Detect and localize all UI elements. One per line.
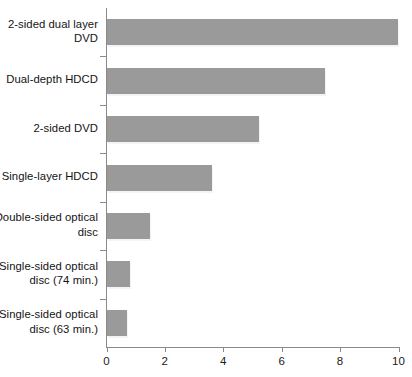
y-axis-tick — [100, 56, 106, 57]
bar — [107, 310, 127, 336]
x-axis-tick — [223, 347, 224, 352]
x-axis-tick — [282, 347, 283, 352]
category-label-line: 2-sided dual layer — [0, 17, 98, 32]
category-label: Dual-depth HDCD — [0, 72, 98, 87]
bar — [107, 165, 212, 191]
category-label: 2-sided DVD — [0, 121, 98, 136]
x-axis-tick — [107, 347, 108, 352]
x-axis-tick — [340, 347, 341, 352]
category-label-line: disc — [0, 225, 98, 240]
category-label: 2-sided dual layerDVD — [0, 17, 98, 46]
x-axis-tick — [399, 347, 400, 352]
category-label-line: Single-layer HDCD — [0, 169, 98, 184]
x-axis-tick-label: 4 — [208, 354, 238, 368]
y-axis-tick — [100, 202, 106, 203]
y-axis-tick — [100, 299, 106, 300]
x-axis-tick-label: 6 — [267, 354, 297, 368]
bar — [107, 261, 130, 287]
x-axis-tick-label: 8 — [325, 354, 355, 368]
category-label-line: Single-sided optical — [0, 307, 98, 322]
category-label-line: 2-sided DVD — [0, 121, 98, 136]
category-label-line: DVD — [0, 31, 98, 46]
x-axis-tick — [165, 347, 166, 352]
bar — [107, 213, 150, 239]
bar-chart: 0246810 2-sided dual layerDVDDual-depth … — [0, 0, 412, 377]
x-axis-line — [106, 347, 399, 348]
x-axis-tick-label: 2 — [150, 354, 180, 368]
category-label-line: Single-sided optical — [0, 259, 98, 274]
category-label-line: disc (74 min.) — [0, 273, 98, 288]
category-label-line: Dual-depth HDCD — [0, 72, 98, 87]
category-label: Double-sided opticaldisc — [0, 210, 98, 239]
bar — [107, 68, 325, 94]
y-axis-tick — [100, 153, 106, 154]
category-label: Single-layer HDCD — [0, 169, 98, 184]
category-label: Single-sided opticaldisc (74 min.) — [0, 259, 98, 288]
y-axis-tick — [100, 105, 106, 106]
bar — [107, 19, 398, 45]
plot-area: 0246810 2-sided dual layerDVDDual-depth … — [0, 0, 412, 377]
category-label-line: Double-sided optical — [0, 210, 98, 225]
bar — [107, 116, 259, 142]
x-axis-tick-label: 0 — [92, 354, 122, 368]
x-axis-tick-label: 10 — [384, 354, 412, 368]
category-label: Single-sided opticaldisc (63 min.) — [0, 307, 98, 336]
y-axis-tick — [100, 250, 106, 251]
category-label-line: disc (63 min.) — [0, 322, 98, 337]
